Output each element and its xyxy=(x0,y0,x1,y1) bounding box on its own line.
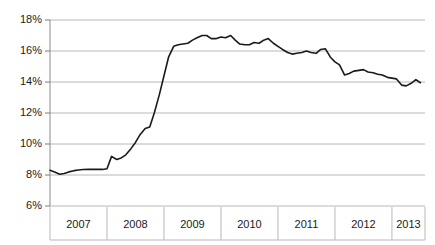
gridline-group xyxy=(50,20,425,206)
y-axis-label: 16% xyxy=(6,44,42,56)
line-chart: 18%16%14%12%10%8%6% 20072008200920102011… xyxy=(0,0,435,245)
y-axis-label: 18% xyxy=(6,13,42,25)
x-axis-label: 2009 xyxy=(164,218,221,230)
y-axis-label: 14% xyxy=(6,75,42,87)
x-axis-label: 2010 xyxy=(221,218,278,230)
x-axis-label: 2008 xyxy=(107,218,164,230)
y-axis-label: 6% xyxy=(6,199,42,211)
y-axis-label: 12% xyxy=(6,106,42,118)
x-axis-label: 2013 xyxy=(392,218,425,230)
data-series-line xyxy=(50,36,420,175)
x-axis-label: 2011 xyxy=(278,218,335,230)
y-axis-label: 10% xyxy=(6,137,42,149)
y-tick-group xyxy=(45,20,50,206)
x-axis-label: 2007 xyxy=(50,218,107,230)
x-axis-label: 2012 xyxy=(335,218,392,230)
chart-canvas xyxy=(0,0,435,245)
y-axis-label: 8% xyxy=(6,168,42,180)
